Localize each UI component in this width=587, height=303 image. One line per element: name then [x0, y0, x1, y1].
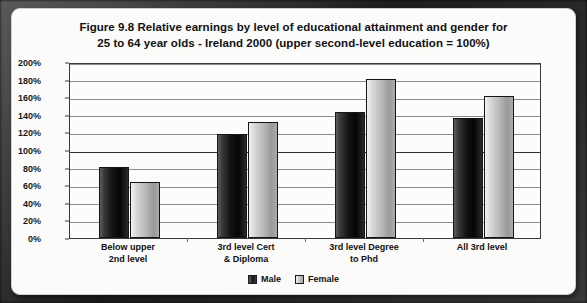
chart-legend: MaleFemale [12, 274, 575, 284]
x-tick-label: 3rd level Degreeto Phd [305, 242, 423, 265]
chart-title: Figure 9.8 Relative earnings by level of… [12, 20, 575, 51]
legend-label: Male [261, 274, 281, 284]
y-tick-mark [65, 133, 69, 134]
y-tick-mark [65, 203, 69, 204]
y-tick-label: 200% [11, 58, 41, 68]
bar-male [453, 118, 483, 238]
y-tick-mark [65, 115, 69, 116]
x-tick-label-line-1: All 3rd level [423, 242, 541, 254]
legend-entry-female[interactable]: Female [295, 274, 339, 284]
y-tick-label: 40% [11, 199, 41, 209]
bar-group [453, 64, 514, 238]
y-tick-label: 160% [11, 93, 41, 103]
bar-group [99, 64, 160, 238]
bar-female [248, 122, 278, 238]
female-swatch-icon [295, 275, 304, 284]
x-tick-label: Below upper2nd level [69, 242, 187, 265]
bar-group [217, 64, 278, 238]
y-tick-label: 180% [11, 76, 41, 86]
x-tick-label-line-1: Below upper [69, 242, 187, 254]
x-tick-label-line-2: & Diploma [187, 254, 305, 266]
bar-group [335, 64, 396, 238]
y-tick-label: 100% [11, 146, 41, 156]
x-tick-label: 3rd level Cert& Diploma [187, 242, 305, 265]
y-tick-label: 0% [11, 234, 41, 244]
legend-entry-male[interactable]: Male [248, 274, 281, 284]
x-tick-label-line-1: 3rd level Cert [187, 242, 305, 254]
x-axis-labels: Below upper2nd level3rd level Cert& Dipl… [69, 242, 541, 272]
figure-frame: Figure 9.8 Relative earnings by level of… [0, 0, 587, 303]
y-tick-label: 20% [11, 216, 41, 226]
x-tick-mark [187, 238, 188, 242]
chart-panel: Figure 9.8 Relative earnings by level of… [11, 8, 576, 295]
male-swatch-icon [248, 275, 257, 284]
x-tick-label-line-2: to Phd [305, 254, 423, 266]
y-tick-mark [65, 221, 69, 222]
bar-female [130, 182, 160, 238]
legend-label: Female [308, 274, 339, 284]
y-tick-mark [65, 63, 69, 64]
bar-male [217, 134, 247, 238]
y-tick-mark [65, 168, 69, 169]
x-tick-label-line-2: 2nd level [69, 254, 187, 266]
y-tick-mark [65, 239, 69, 240]
y-tick-mark [65, 186, 69, 187]
x-tick-label-line-1: 3rd level Degree [305, 242, 423, 254]
chart-title-line-1: Figure 9.8 Relative earnings by level of… [79, 21, 507, 33]
plot-area [69, 63, 541, 239]
y-tick-label: 80% [11, 164, 41, 174]
y-tick-label: 140% [11, 111, 41, 121]
y-tick-label: 60% [11, 181, 41, 191]
y-tick-mark [65, 98, 69, 99]
chart-title-line-2: 25 to 64 year olds - Ireland 2000 (upper… [12, 36, 575, 52]
bar-male [335, 112, 365, 238]
y-tick-label: 120% [11, 128, 41, 138]
y-tick-mark [65, 151, 69, 152]
x-tick-mark [305, 238, 306, 242]
x-tick-label: All 3rd level [423, 242, 541, 254]
bar-female [366, 79, 396, 238]
x-tick-mark [423, 238, 424, 242]
y-tick-mark [65, 80, 69, 81]
bar-female [484, 96, 514, 238]
bar-male [99, 167, 129, 238]
